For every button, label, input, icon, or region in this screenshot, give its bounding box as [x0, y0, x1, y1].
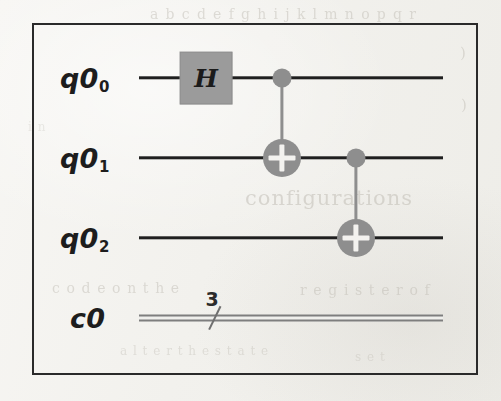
- register-label-c0: c0: [70, 305, 105, 332]
- cnot-target-cnot-0-1[interactable]: [263, 139, 301, 177]
- cnot-plus-icon: [353, 225, 358, 252]
- register-label-subscript: 1: [99, 158, 110, 176]
- gate-label: H: [194, 66, 218, 91]
- quantum-wire-q0_2: [139, 236, 443, 239]
- bleed-through-text: a b c d e f g h i j k l m n o p q r: [150, 6, 417, 22]
- classical-bus-width-label: 3: [205, 290, 218, 309]
- classical-wire-c0: [139, 315, 443, 322]
- cnot-control-dot-cnot-1-2[interactable]: [347, 149, 366, 168]
- register-label-q0_0: q00: [60, 65, 109, 92]
- register-label-subscript: 2: [99, 238, 110, 256]
- cnot-target-cnot-1-2[interactable]: [337, 219, 375, 257]
- cnot-control-dot-cnot-0-1[interactable]: [273, 69, 292, 88]
- cnot-plus-icon: [279, 145, 284, 172]
- register-label-subscript: 0: [99, 78, 110, 96]
- register-label-q0_1: q01: [60, 145, 109, 172]
- register-label-q0_2: q02: [60, 225, 109, 252]
- gate-hadamard[interactable]: H: [180, 52, 233, 105]
- scanned-page: a b c d e f g h i j k l m n o p q r ) ) …: [0, 0, 501, 401]
